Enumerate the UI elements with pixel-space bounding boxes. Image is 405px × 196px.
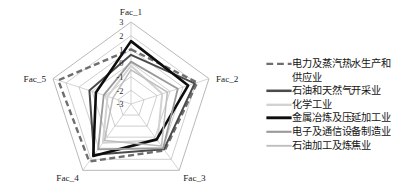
- legend-swatch-solid-lightgray-icon: [266, 139, 292, 153]
- legend-item-5: 石油加工及炼焦业: [266, 139, 405, 153]
- legend-swatch-solid-verylightgray-icon: [266, 98, 292, 112]
- legend-item-2: 化学工业: [266, 98, 405, 112]
- legend-item-3: 金属冶炼及压延加工业: [266, 111, 405, 125]
- legend-item-0: 电力及蒸汽热水生产和: [266, 57, 405, 71]
- radar-tick-1: 1: [119, 46, 123, 55]
- legend-label-1: 石油和天然气开采业: [292, 84, 381, 98]
- legend-label-5: 石油加工及炼焦业: [292, 139, 371, 153]
- radar-tick-neg2: -2: [117, 87, 124, 96]
- legend-label-4: 电子及通信设备制造业: [292, 125, 391, 139]
- legend-swatch-blank: [266, 71, 292, 85]
- radar-tick-3: 3: [119, 18, 123, 27]
- legend: 电力及蒸汽热水生产和 供应业 石油和天然气开采业 化学工业: [262, 0, 405, 196]
- legend-item-1: 石油和天然气开采业: [266, 84, 405, 98]
- legend-label-3: 金属冶炼及压延加工业: [292, 111, 391, 125]
- radar-plot-area: 3210-1-2-3 Fac_1 Fac_2 Fac_3 Fac_4 Fac_5: [0, 0, 262, 196]
- radar-tick-2: 2: [119, 32, 123, 41]
- legend-label-0: 电力及蒸汽热水生产和: [292, 57, 391, 71]
- axis-label-fac-2: Fac_2: [216, 74, 239, 84]
- radar-tick-0: 0: [119, 59, 123, 68]
- legend-swatch-dashed-icon: [266, 57, 292, 71]
- radar-chart-svg: 3210-1-2-3 Fac_1 Fac_2 Fac_3 Fac_4 Fac_5: [0, 0, 262, 196]
- radar-tick-neg3: -3: [117, 100, 124, 109]
- legend-swatch-solid-mediumgray-icon: [266, 125, 292, 139]
- legend-item-0-continuation: 供应业: [266, 71, 405, 85]
- legend-label-0-line2: 供应业: [292, 71, 322, 85]
- radar-tick-neg1: -1: [117, 73, 124, 82]
- legend-item-4: 电子及通信设备制造业: [266, 125, 405, 139]
- axis-label-fac-4: Fac_4: [56, 173, 79, 183]
- axis-label-fac-5: Fac_5: [24, 74, 47, 84]
- legend-swatch-solid-black-icon: [266, 111, 292, 125]
- legend-swatch-solid-darkgray-icon: [266, 84, 292, 98]
- axis-label-fac-3: Fac_3: [183, 173, 206, 183]
- radar-chart-figure: 3210-1-2-3 Fac_1 Fac_2 Fac_3 Fac_4 Fac_5…: [0, 0, 405, 196]
- legend-label-2: 化学工业: [292, 98, 332, 112]
- axis-label-fac-1: Fac_1: [120, 7, 143, 17]
